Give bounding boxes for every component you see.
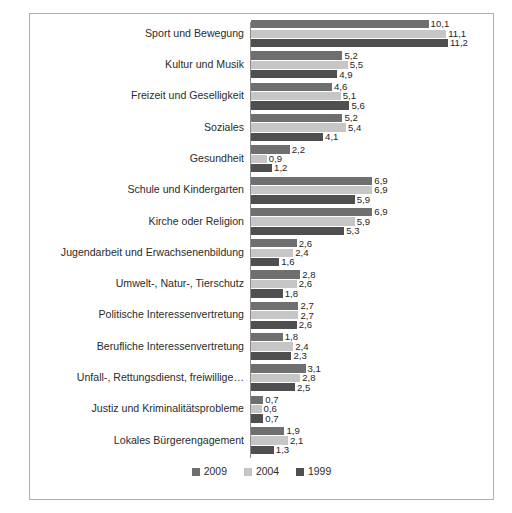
- bar-value-label: 5,6: [351, 101, 364, 111]
- bar-2009: [251, 364, 306, 372]
- bar-line: 2,7: [251, 311, 493, 319]
- bar-value-label: 2,5: [297, 383, 310, 393]
- category-label: Berufliche Interessenvertretung: [30, 341, 244, 353]
- bar-2004: [251, 311, 298, 319]
- bar-group: 10,111,111,2: [251, 18, 493, 49]
- bar-rows-container: Sport und Bewegung10,111,111,2Kultur und…: [30, 18, 493, 458]
- bar-group-row: Justiz und Kriminalitätsprobleme0,70,60,…: [30, 394, 493, 425]
- bar-line: 0,7: [251, 414, 493, 422]
- bar-value-label: 5,4: [348, 123, 361, 133]
- bar-line: 4,9: [251, 70, 493, 78]
- bar-1999: [251, 101, 349, 109]
- bar-value-label: 2,6: [299, 320, 312, 330]
- category-label: Jugendarbeit und Erwachsenenbildung: [30, 247, 244, 259]
- bar-2009: [251, 302, 298, 310]
- bar-line: 5,4: [251, 123, 493, 131]
- bar-value-label: 2,6: [299, 279, 312, 289]
- bar-2004: [251, 405, 262, 413]
- bar-group-row: Jugendarbeit und Erwachsenenbildung2,62,…: [30, 237, 493, 268]
- bar-group-row: Kultur und Musik5,25,54,9: [30, 49, 493, 80]
- bar-1999: [251, 414, 263, 422]
- bar-value-label: 1,3: [276, 445, 289, 455]
- bar-group: 4,65,15,6: [251, 81, 493, 112]
- bar-value-label: 2,2: [292, 145, 305, 155]
- bar-line: 5,2: [251, 51, 493, 59]
- bar-group-row: Umwelt-, Natur-, Tierschutz2,82,61,8: [30, 268, 493, 299]
- bar-value-label: 10,1: [431, 19, 450, 29]
- category-label: Politische Interessenvertretung: [30, 309, 244, 321]
- bar-2004: [251, 186, 372, 194]
- bar-group: 5,25,44,1: [251, 112, 493, 143]
- category-label: Gesundheit: [30, 153, 244, 165]
- bar-2009: [251, 51, 342, 59]
- bar-group: 2,82,61,8: [251, 268, 493, 299]
- bar-2004: [251, 155, 267, 163]
- bar-line: 2,8: [251, 270, 493, 278]
- legend-item-1999[interactable]: 1999: [296, 466, 331, 477]
- bar-value-label: 11,2: [450, 38, 468, 48]
- bar-2004: [251, 280, 297, 288]
- bar-line: 5,5: [251, 61, 493, 69]
- legend-label: 2004: [256, 466, 279, 477]
- bar-1999: [251, 164, 272, 172]
- bar-value-label: 1,6: [281, 257, 294, 267]
- legend-label: 2009: [204, 466, 227, 477]
- bar-1999: [251, 70, 337, 78]
- bar-line: 6,9: [251, 177, 493, 185]
- bar-2009: [251, 396, 263, 404]
- category-label: Soziales: [30, 122, 244, 134]
- bar-line: 2,6: [251, 280, 493, 288]
- bar-line: 11,2: [251, 39, 493, 47]
- category-label: Schule und Kindergarten: [30, 184, 244, 196]
- bar-line: 5,3: [251, 227, 493, 235]
- bar-group-row: Soziales5,25,44,1: [30, 112, 493, 143]
- bar-line: 5,9: [251, 217, 493, 225]
- category-label: Kultur und Musik: [30, 59, 244, 71]
- bar-2004: [251, 61, 348, 69]
- bar-1999: [251, 39, 448, 47]
- legend-swatch-icon: [192, 468, 200, 476]
- bar-line: 0,7: [251, 396, 493, 404]
- bar-2004: [251, 374, 300, 382]
- bar-line: 5,6: [251, 101, 493, 109]
- bar-group-row: Freizeit und Geselligkeit4,65,15,6: [30, 81, 493, 112]
- bar-line: 4,1: [251, 133, 493, 141]
- bar-line: 1,9: [251, 427, 493, 435]
- bar-line: 5,9: [251, 195, 493, 203]
- bar-group: 0,70,60,7: [251, 394, 493, 425]
- bar-group-row: Sport und Bewegung10,111,111,2: [30, 18, 493, 49]
- legend-item-2004[interactable]: 2004: [244, 466, 279, 477]
- bar-line: 2,6: [251, 239, 493, 247]
- bar-line: 1,6: [251, 258, 493, 266]
- legend-label: 1999: [308, 466, 331, 477]
- bar-line: 0,9: [251, 155, 493, 163]
- bar-value-label: 1,8: [285, 289, 298, 299]
- bar-line: 1,8: [251, 289, 493, 297]
- bar-1999: [251, 383, 295, 391]
- bar-2004: [251, 342, 293, 350]
- chart-legend: 200920041999: [30, 466, 493, 477]
- bar-line: 1,8: [251, 333, 493, 341]
- bar-line: 2,5: [251, 383, 493, 391]
- bar-group: 3,12,82,5: [251, 362, 493, 393]
- bar-1999: [251, 258, 279, 266]
- bar-group-row: Berufliche Interessenvertretung1,82,42,3: [30, 331, 493, 362]
- bar-group-row: Gesundheit2,20,91,2: [30, 143, 493, 174]
- category-label: Lokales Bürgerengagement: [30, 435, 244, 447]
- bar-line: 5,2: [251, 114, 493, 122]
- bar-line: 2,8: [251, 374, 493, 382]
- bar-line: 1,3: [251, 446, 493, 454]
- bar-group-row: Kirche oder Religion6,95,95,3: [30, 206, 493, 237]
- category-label: Sport und Bewegung: [30, 28, 244, 40]
- bar-1999: [251, 352, 291, 360]
- bar-group: 2,62,41,6: [251, 237, 493, 268]
- bar-group: 1,92,11,3: [251, 425, 493, 456]
- legend-item-2009[interactable]: 2009: [192, 466, 227, 477]
- bar-line: 1,2: [251, 164, 493, 172]
- bar-2009: [251, 208, 372, 216]
- bar-value-label: 5,9: [357, 195, 370, 205]
- bar-value-label: 5,3: [346, 226, 359, 236]
- category-label: Kirche oder Religion: [30, 216, 244, 228]
- bar-group-row: Politische Interessenvertretung2,72,72,6: [30, 300, 493, 331]
- legend-swatch-icon: [296, 468, 304, 476]
